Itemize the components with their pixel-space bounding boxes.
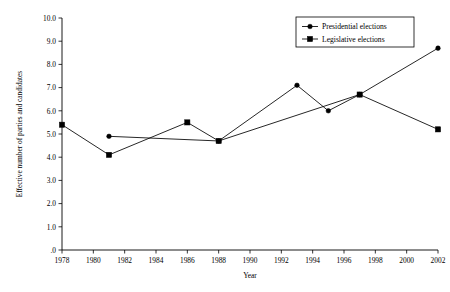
legend-marker-circle — [308, 24, 313, 29]
data-point-circle — [107, 134, 112, 139]
data-point-square — [357, 92, 362, 97]
y-tick-label: 3.0 — [47, 176, 57, 185]
y-tick-label: 8.0 — [47, 60, 57, 69]
series-line-2 — [62, 95, 438, 155]
y-tick-label: 2.0 — [47, 199, 57, 208]
y-tick-label: 4.0 — [47, 153, 57, 162]
data-point-circle — [436, 46, 441, 51]
y-tick-label: 9.0 — [47, 37, 57, 46]
x-axis-tick-group: 1978198019821984198619881990199219941996… — [55, 250, 446, 265]
x-tick-label: 1990 — [243, 256, 258, 265]
legend-label-2: Legislative elections — [322, 35, 385, 44]
x-tick-label: 1986 — [180, 256, 195, 265]
data-point-square — [185, 120, 190, 125]
y-tick-label: 6.0 — [47, 107, 57, 116]
data-point-square — [106, 152, 111, 157]
data-point-circle — [295, 83, 300, 88]
x-tick-label: 2002 — [431, 256, 446, 265]
x-tick-label: 1998 — [368, 256, 383, 265]
x-tick-label: 1982 — [117, 256, 132, 265]
x-tick-label: 1980 — [86, 256, 101, 265]
legend-marker-square — [307, 36, 312, 41]
data-point-square — [435, 127, 440, 132]
y-tick-label: 10.0 — [43, 14, 56, 23]
x-tick-label: 2000 — [399, 256, 414, 265]
x-tick-label: 1984 — [149, 256, 164, 265]
y-tick-label: 1.0 — [47, 223, 57, 232]
y-tick-label: 7.0 — [47, 83, 57, 92]
x-tick-label: 1988 — [211, 256, 226, 265]
x-tick-label: 1978 — [55, 256, 70, 265]
series-line-1 — [109, 48, 438, 141]
data-point-circle — [326, 109, 331, 114]
y-tick-label: .0 — [50, 246, 56, 255]
y-axis-title: Effective number of parties and candidat… — [15, 71, 24, 198]
chart-legend: Presidential electionsLegislative electi… — [296, 17, 414, 47]
x-tick-label: 1992 — [274, 256, 289, 265]
x-tick-label: 1996 — [337, 256, 352, 265]
chart-container: .01.02.03.04.05.06.07.08.09.010.0 197819… — [0, 0, 450, 292]
data-point-square — [59, 122, 64, 127]
series-group — [59, 46, 440, 158]
x-tick-label: 1994 — [305, 256, 320, 265]
line-chart: .01.02.03.04.05.06.07.08.09.010.0 197819… — [0, 0, 450, 292]
data-point-square — [216, 138, 221, 143]
y-tick-label: 5.0 — [47, 130, 57, 139]
x-axis-title: Year — [243, 271, 257, 280]
y-axis-tick-group: .01.02.03.04.05.06.07.08.09.010.0 — [43, 14, 62, 255]
legend-label-1: Presidential elections — [322, 22, 387, 31]
